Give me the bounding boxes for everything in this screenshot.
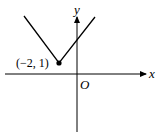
x-axis-label: x: [148, 66, 155, 81]
vertex-point: [56, 60, 61, 65]
graph-canvas: y x O (−2, 1): [0, 0, 161, 134]
y-axis-label: y: [72, 2, 80, 17]
origin-label: O: [80, 77, 90, 92]
vertex-label: (−2, 1): [16, 56, 49, 70]
